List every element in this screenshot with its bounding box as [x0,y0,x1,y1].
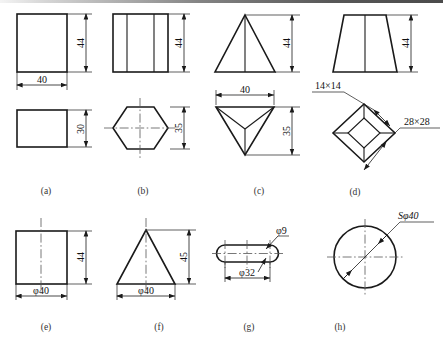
figure-d-truncated-pyramid: 44 14×14 28×28 [312,15,440,170]
figure-a-top-rectangle [17,110,67,147]
dim-c-width-40: 40 [240,84,250,95]
dim-d-size-14x14: 14×14 [315,80,341,91]
dim-c-depth-35: 35 [281,126,292,136]
figure-h-sphere: Sφ40 [327,210,434,295]
figure-c-triangular-pyramid: 44 40 35 [215,15,300,155]
caption-e: (e) [41,322,52,333]
figure-b-front-rectangle [113,14,168,72]
dim-h-arrow-upper [378,235,387,244]
dim-f-height-45: 45 [178,252,189,262]
caption-d: (d) [349,187,360,198]
dim-a-width-40: 40 [37,74,47,85]
dim-e-height-44: 44 [75,252,86,262]
dim-d-leader-28 [364,142,386,170]
figure-f-cone: 45 φ40 [117,218,196,300]
caption-c: (c) [254,186,265,197]
caption-b: (b) [137,186,148,197]
drawing-sheet: .ol{fill:none;stroke:#1a1a1a;stroke-widt… [0,0,443,348]
dim-g-diameter-32: φ32 [239,267,255,278]
figure-e-cylinder: 44 φ40 [16,218,92,300]
dim-f-diameter-40: φ40 [138,285,154,296]
dim-d-height-44: 44 [400,38,411,48]
dim-d-size-28x28: 28×28 [404,116,430,127]
figure-e-front-rectangle [16,231,67,284]
dim-d-leader-14 [374,110,390,126]
caption-f: (f) [154,322,164,333]
dim-a-height-44: 44 [75,38,86,48]
dim-a-depth-30: 30 [75,124,86,134]
dim-e-diameter-40: φ40 [33,285,49,296]
caption-h: (h) [334,322,345,333]
figure-b-hexagonal-prism: 44 35 [104,14,190,158]
dim-c-height-44: 44 [281,38,292,48]
dim-g-leader-inner [258,258,266,272]
figure-g-torus-ring: φ9 φ32 [212,225,289,282]
figure-a-front-square [17,14,67,72]
scan-artifact-line [0,0,443,3]
figure-a-rectangular-prism: 44 40 30 [17,14,92,147]
caption-g: (g) [243,322,254,333]
caption-a: (a) [41,186,52,197]
dim-g-diameter-9: φ9 [276,225,287,236]
dim-b-depth-35: 35 [173,123,184,133]
dim-b-height-44: 44 [173,38,184,48]
figure-d-top-inner-diamond [348,118,380,148]
dim-h-sphere-diameter-40: Sφ40 [398,210,419,221]
dim-h-arrow-lower [343,270,352,279]
technical-drawing-canvas: .ol{fill:none;stroke:#1a1a1a;stroke-widt… [0,0,443,348]
